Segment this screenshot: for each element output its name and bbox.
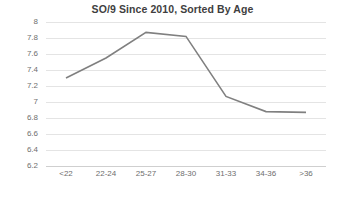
plot-area [46, 22, 326, 166]
y-tick-label: 7 [0, 98, 42, 106]
series-polyline [66, 32, 306, 112]
y-tick-label: 8 [0, 18, 42, 26]
y-tick-label: 7.8 [0, 34, 42, 42]
y-tick-label: 6.6 [0, 130, 42, 138]
y-axis: 87.87.67.47.276.86.66.46.2 [0, 22, 42, 166]
series-so9-line [46, 22, 326, 166]
gridline-6-2 [46, 166, 326, 167]
x-tick-label: 25-27 [136, 170, 156, 178]
x-tick-label: >36 [299, 170, 313, 178]
x-tick-label: 34-36 [256, 170, 276, 178]
x-tick-label: 28-30 [176, 170, 196, 178]
x-tick-label: 22-24 [96, 170, 116, 178]
y-tick-label: 7.6 [0, 50, 42, 58]
y-tick-label: 6.2 [0, 162, 42, 170]
x-axis: <2222-2425-2728-3031-3334-36>36 [46, 170, 326, 186]
line-chart: SO/9 Since 2010, Sorted By Age 87.87.67.… [0, 0, 345, 197]
x-tick-label: 31-33 [216, 170, 236, 178]
y-tick-label: 7.2 [0, 82, 42, 90]
x-tick-label: <22 [59, 170, 73, 178]
y-tick-label: 6.8 [0, 114, 42, 122]
y-tick-label: 7.4 [0, 66, 42, 74]
y-tick-label: 6.4 [0, 146, 42, 154]
chart-title: SO/9 Since 2010, Sorted By Age [0, 3, 345, 15]
